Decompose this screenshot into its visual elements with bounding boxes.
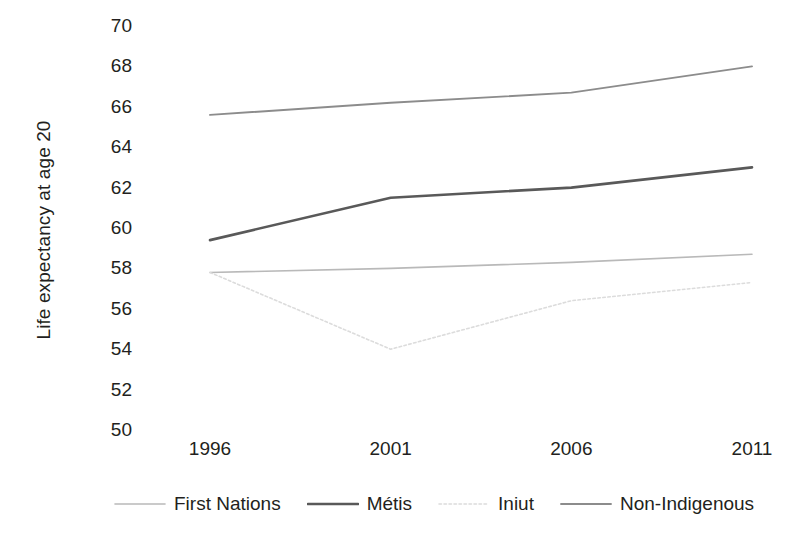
y-axis-tick-label: 70 <box>86 14 132 38</box>
y-axis-tick-label: 56 <box>86 297 132 321</box>
legend-item-label: Métis <box>367 492 412 516</box>
chart-legend: First NationsMétisIniutNon-Indigenous <box>100 487 800 521</box>
y-axis-tick-label: 58 <box>86 256 132 280</box>
series-line <box>210 167 752 240</box>
legend-line-swatch-icon <box>114 498 166 510</box>
legend-item[interactable]: First Nations <box>114 492 281 516</box>
y-axis-tick-label: 60 <box>86 216 132 240</box>
series-line <box>210 272 752 349</box>
line-chart: Life expectancy at age 20 70686664626058… <box>0 0 804 544</box>
plot-area <box>130 26 770 430</box>
legend-item-label: First Nations <box>174 492 281 516</box>
y-axis-tick-label: 54 <box>86 337 132 361</box>
plot-lines <box>130 26 770 430</box>
legend-item[interactable]: Iniut <box>438 492 534 516</box>
legend-line-swatch-icon <box>438 498 490 510</box>
y-axis-tick-label: 62 <box>86 176 132 200</box>
y-axis-tick-label: 66 <box>86 95 132 119</box>
legend-item-label: Non-Indigenous <box>620 492 754 516</box>
legend-item[interactable]: Non-Indigenous <box>560 492 754 516</box>
y-axis-tick-label: 52 <box>86 378 132 402</box>
legend-item[interactable]: Métis <box>307 492 412 516</box>
legend-line-swatch-icon <box>307 498 359 510</box>
legend-item-label: Iniut <box>498 492 534 516</box>
x-axis-tick-labels: 1996200120062011 <box>130 436 770 462</box>
y-axis-title: Life expectancy at age 20 <box>22 20 66 440</box>
series-line <box>210 254 752 272</box>
y-axis-tick-label: 68 <box>86 54 132 78</box>
x-axis-tick-label: 2011 <box>692 436 804 462</box>
y-axis-tick-labels: 7068666462605856545250 <box>86 26 132 430</box>
x-axis-tick-label: 2001 <box>331 436 451 462</box>
series-line <box>210 66 752 114</box>
legend-line-swatch-icon <box>560 498 612 510</box>
x-axis-tick-label: 2006 <box>511 436 631 462</box>
y-axis-tick-label: 64 <box>86 135 132 159</box>
x-axis-tick-label: 1996 <box>150 436 270 462</box>
y-axis-tick-label: 50 <box>86 418 132 442</box>
